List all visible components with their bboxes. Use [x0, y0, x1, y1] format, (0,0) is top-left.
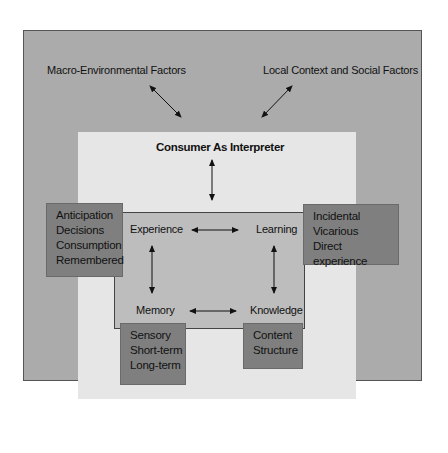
connector-arrows — [0, 0, 448, 453]
macro-to-interpreter-arrow — [150, 86, 181, 117]
local-to-interpreter-arrow — [262, 86, 292, 117]
